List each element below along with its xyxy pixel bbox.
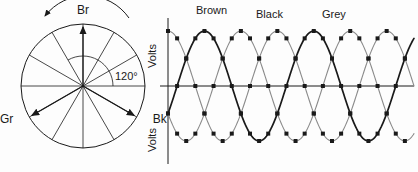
wave-marker bbox=[330, 139, 334, 143]
wave-marker bbox=[394, 84, 398, 88]
wave-marker bbox=[230, 36, 234, 40]
wave-marker bbox=[266, 84, 270, 88]
wave-marker bbox=[312, 29, 316, 33]
phasor-label-bk: Bk bbox=[153, 112, 168, 126]
wave-marker bbox=[403, 57, 407, 61]
wave-marker bbox=[303, 36, 307, 40]
wave-marker bbox=[339, 132, 343, 136]
y-axis-label-lower: Volts bbox=[146, 128, 158, 152]
wave-marker bbox=[257, 139, 261, 143]
series-label-brown: Brown bbox=[196, 4, 227, 16]
wave-marker bbox=[221, 57, 225, 61]
series-label-grey: Grey bbox=[322, 8, 346, 20]
wave-marker bbox=[266, 132, 270, 136]
wave-marker bbox=[294, 139, 298, 143]
wave-marker bbox=[193, 132, 197, 136]
wave-marker bbox=[248, 84, 252, 88]
wave-marker bbox=[239, 112, 243, 116]
phasor-label-gr: Gr bbox=[0, 112, 13, 126]
wave-marker bbox=[321, 36, 325, 40]
phasor-arrow-bk bbox=[83, 86, 134, 116]
wave-marker bbox=[303, 84, 307, 88]
wave-marker bbox=[284, 132, 288, 136]
wave-marker bbox=[385, 112, 389, 116]
wave-marker bbox=[403, 139, 407, 143]
wave-marker bbox=[339, 36, 343, 40]
wave-marker bbox=[348, 29, 352, 33]
wave-marker bbox=[239, 29, 243, 33]
wave-marker bbox=[357, 36, 361, 40]
wave-marker bbox=[357, 84, 361, 88]
wave-marker bbox=[175, 36, 179, 40]
wave-marker bbox=[284, 84, 288, 88]
wave-marker bbox=[376, 84, 380, 88]
wave-marker bbox=[339, 84, 343, 88]
wave-marker bbox=[275, 29, 279, 33]
wave-marker bbox=[376, 132, 380, 136]
wave-marker bbox=[257, 57, 261, 61]
wave-marker bbox=[175, 84, 179, 88]
wave-marker bbox=[385, 29, 389, 33]
angle-label-120: 120° bbox=[115, 70, 138, 82]
wave-marker bbox=[193, 36, 197, 40]
wave-marker bbox=[184, 139, 188, 143]
phasor-label-br: Br bbox=[77, 3, 89, 17]
wave-marker bbox=[248, 36, 252, 40]
wave-marker bbox=[184, 57, 188, 61]
wave-marker bbox=[212, 84, 216, 88]
wave-marker bbox=[348, 112, 352, 116]
wave-marker bbox=[294, 57, 298, 61]
wave-marker bbox=[266, 36, 270, 40]
wave-marker bbox=[221, 139, 225, 143]
wave-marker bbox=[202, 112, 206, 116]
phasor-arrow-gr bbox=[32, 86, 83, 116]
wave-marker bbox=[230, 132, 234, 136]
waveform-diagram bbox=[160, 18, 414, 164]
wave-marker bbox=[366, 57, 370, 61]
wave-marker bbox=[166, 29, 170, 33]
series-label-black: Black bbox=[256, 8, 283, 20]
wave-marker bbox=[312, 112, 316, 116]
wave-marker bbox=[366, 139, 370, 143]
wave-marker bbox=[394, 36, 398, 40]
wave-marker bbox=[230, 84, 234, 88]
wave-marker bbox=[212, 132, 216, 136]
wave-marker bbox=[303, 132, 307, 136]
wave-marker bbox=[321, 132, 325, 136]
wave-marker bbox=[357, 132, 361, 136]
wave-marker bbox=[321, 84, 325, 88]
y-axis-label-upper: Volts bbox=[146, 44, 158, 68]
wave-marker bbox=[330, 57, 334, 61]
wave-marker bbox=[202, 29, 206, 33]
wave-marker bbox=[284, 36, 288, 40]
wave-marker bbox=[212, 36, 216, 40]
wave-marker bbox=[394, 132, 398, 136]
wave-marker bbox=[193, 84, 197, 88]
wave-marker bbox=[275, 112, 279, 116]
wave-marker bbox=[248, 132, 252, 136]
wave-marker bbox=[376, 36, 380, 40]
three-phase-figure: Br Gr Bk 120° Volts Volts Brown Black Gr… bbox=[0, 0, 418, 172]
wave-marker bbox=[175, 132, 179, 136]
